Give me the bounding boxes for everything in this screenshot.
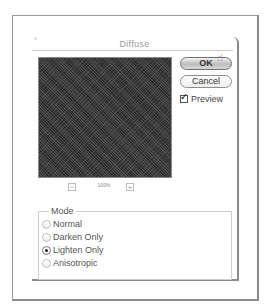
preview-zoom-controls: – 100% + bbox=[38, 182, 172, 192]
preview-checkbox-label: Preview bbox=[191, 94, 223, 104]
radio-label: Darken Only bbox=[53, 232, 103, 242]
radio-button[interactable] bbox=[42, 259, 51, 268]
mode-option-darken-only[interactable]: Darken Only bbox=[42, 231, 103, 243]
diffuse-dialog: Diffuse – 100% + OK ☝ Cancel Preview Mod… bbox=[32, 37, 239, 281]
radio-label: Lighten Only bbox=[53, 245, 104, 255]
mode-option-anisotropic[interactable]: Anisotropic bbox=[42, 257, 98, 269]
mode-group: Mode Normal Darken Only Lighten Only Ani… bbox=[38, 211, 232, 280]
title-divider bbox=[32, 50, 233, 51]
cancel-button[interactable]: Cancel bbox=[180, 75, 232, 88]
radio-button[interactable] bbox=[42, 220, 51, 229]
filter-preview-image[interactable] bbox=[38, 57, 172, 178]
radio-button[interactable] bbox=[42, 233, 51, 242]
plus-icon: + bbox=[128, 184, 132, 190]
radio-label: Anisotropic bbox=[53, 258, 98, 268]
ok-button[interactable]: OK bbox=[180, 57, 232, 70]
dialog-title: Diffuse bbox=[32, 39, 237, 49]
zoom-out-button[interactable]: – bbox=[68, 183, 76, 191]
preview-checkbox[interactable] bbox=[180, 95, 188, 103]
zoom-level: 100% bbox=[92, 182, 116, 188]
mode-option-lighten-only[interactable]: Lighten Only bbox=[42, 244, 104, 256]
preview-checkbox-row[interactable]: Preview bbox=[180, 93, 223, 105]
radio-button-selected[interactable] bbox=[42, 246, 51, 255]
radio-label: Normal bbox=[53, 219, 82, 229]
minus-icon: – bbox=[70, 184, 73, 190]
mode-option-normal[interactable]: Normal bbox=[42, 218, 82, 230]
zoom-in-button[interactable]: + bbox=[126, 183, 134, 191]
mode-legend: Mode bbox=[49, 206, 76, 216]
hand-cursor-icon: ☝ bbox=[217, 53, 223, 63]
